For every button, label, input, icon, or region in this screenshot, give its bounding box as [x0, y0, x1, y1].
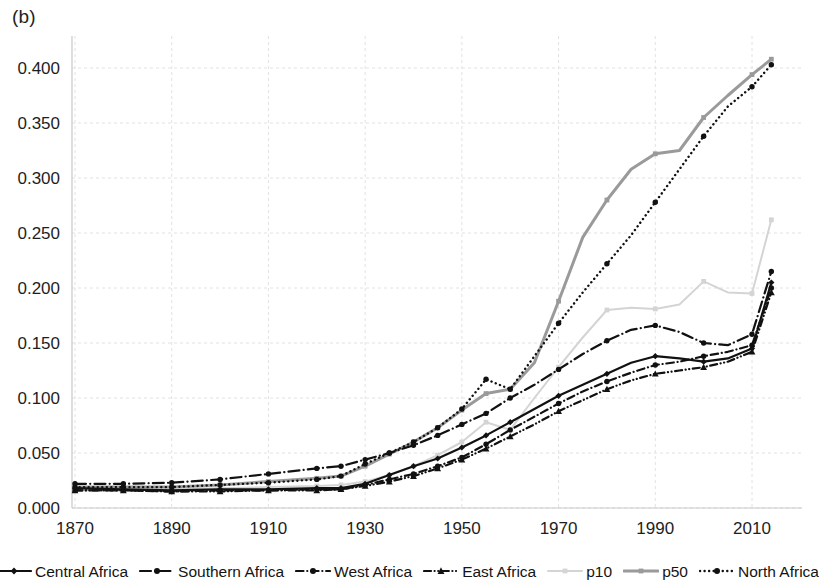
data-point-marker [652, 353, 658, 359]
series-line [75, 65, 771, 487]
x-axis-tick-label: 1970 [540, 519, 578, 538]
y-axis-tick-label: 0.200 [17, 279, 60, 298]
data-point-marker [701, 279, 706, 284]
legend-item-p50[interactable]: p50 [623, 564, 688, 580]
legend-item-central-africa[interactable]: Central Africa [0, 564, 128, 580]
plot-area: 0.0000.0500.1000.1500.2000.2500.3000.350… [0, 0, 815, 540]
data-point-marker [459, 406, 464, 411]
y-axis-tick-label: 0.000 [17, 499, 60, 518]
data-point-marker [749, 332, 754, 337]
data-point-marker [750, 72, 755, 77]
y-axis-tick-label: 0.150 [17, 334, 60, 353]
legend-label: p50 [662, 564, 688, 580]
data-point-marker [701, 359, 707, 365]
data-point-marker [701, 134, 706, 139]
data-point-marker [435, 425, 440, 430]
data-point-marker [411, 443, 416, 448]
x-axis-tick-label: 1990 [636, 519, 674, 538]
data-point-marker [750, 291, 755, 296]
data-point-marker [435, 464, 440, 469]
y-axis-tick-label: 0.050 [17, 444, 60, 463]
series-line [75, 220, 771, 490]
legend-label: Central Africa [35, 564, 128, 580]
legend-item-west-africa[interactable]: West Africa [295, 564, 412, 580]
chart-legend: Central AfricaSouthern AfricaWest Africa… [0, 564, 815, 580]
data-point-marker [483, 377, 488, 382]
data-point-marker [701, 340, 706, 345]
data-point-marker [508, 427, 513, 432]
data-point-marker [484, 391, 489, 396]
data-point-marker [769, 269, 774, 274]
data-point-marker [362, 457, 367, 462]
legend-item-east-africa[interactable]: East Africa [423, 564, 536, 580]
data-point-marker [605, 198, 610, 203]
data-point-marker [508, 387, 513, 392]
data-point-marker [169, 480, 174, 485]
legend-label: p10 [586, 564, 612, 580]
data-point-marker [605, 308, 610, 313]
x-axis-tick-label: 1930 [346, 519, 384, 538]
series-p50 [73, 57, 774, 490]
series-north-africa [72, 62, 774, 490]
data-point-marker [387, 450, 392, 455]
data-point-marker [604, 379, 609, 384]
y-axis-tick-label: 0.400 [17, 59, 60, 78]
series-line [75, 272, 771, 484]
legend-swatch-central-africa [0, 564, 32, 578]
data-point-marker [508, 395, 513, 400]
data-point-marker [338, 473, 343, 478]
data-point-marker [484, 420, 489, 425]
data-point-marker [266, 480, 271, 485]
y-axis-tick-label: 0.100 [17, 389, 60, 408]
data-point-marker [338, 464, 343, 469]
data-point-marker [749, 84, 754, 89]
data-point-marker [701, 354, 706, 359]
legend-label: Southern Africa [178, 564, 284, 580]
legend-swatch-southern-africa [139, 564, 175, 578]
x-axis-tick-label: 1910 [250, 519, 288, 538]
data-point-marker [121, 481, 126, 486]
data-point-marker [769, 62, 774, 67]
series-southern-africa [72, 269, 774, 487]
legend-swatch-west-africa [295, 564, 331, 578]
data-point-marker [768, 279, 774, 285]
x-axis-tick-label: 2010 [733, 519, 771, 538]
data-point-marker [459, 455, 464, 460]
data-point-marker [653, 151, 658, 156]
legend-item-southern-africa[interactable]: Southern Africa [139, 564, 284, 580]
legend-item-north-africa[interactable]: North Africa [699, 564, 819, 580]
line-chart: 0.0000.0500.1000.1500.2000.2500.3000.350… [0, 0, 815, 540]
data-point-marker [653, 200, 658, 205]
data-point-marker [483, 411, 488, 416]
data-point-marker [314, 466, 319, 471]
data-point-marker [769, 217, 774, 222]
data-point-marker [653, 307, 658, 312]
x-axis-tick-label: 1950 [443, 519, 481, 538]
x-axis-tick-label: 1870 [56, 519, 94, 538]
legend-swatch-north-africa [699, 564, 735, 578]
data-point-marker [459, 422, 464, 427]
legend-label: West Africa [334, 564, 412, 580]
data-point-marker [314, 477, 319, 482]
data-point-marker [604, 261, 609, 266]
data-point-marker [604, 338, 609, 343]
data-point-marker [556, 299, 561, 304]
legend-label: East Africa [462, 564, 536, 580]
data-point-marker [411, 471, 416, 476]
data-point-marker [653, 323, 658, 328]
y-axis-tick-label: 0.350 [17, 114, 60, 133]
legend-item-p10[interactable]: p10 [547, 564, 612, 580]
data-point-marker [266, 471, 271, 476]
tick-labels: 0.0000.0500.1000.1500.2000.2500.3000.350… [17, 59, 770, 538]
legend-swatch-p10 [547, 564, 583, 578]
data-point-marker [217, 477, 222, 482]
data-point-marker [701, 115, 706, 120]
data-point-marker [459, 440, 464, 445]
data-point-marker [653, 362, 658, 367]
data-point-marker [556, 367, 561, 372]
data-point-marker [769, 57, 774, 62]
data-point-marker [556, 401, 561, 406]
legend-swatch-p50 [623, 564, 659, 578]
series-line [75, 283, 771, 491]
